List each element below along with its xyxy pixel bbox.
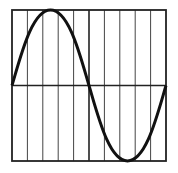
sine-wave-diagram: [0, 0, 178, 173]
